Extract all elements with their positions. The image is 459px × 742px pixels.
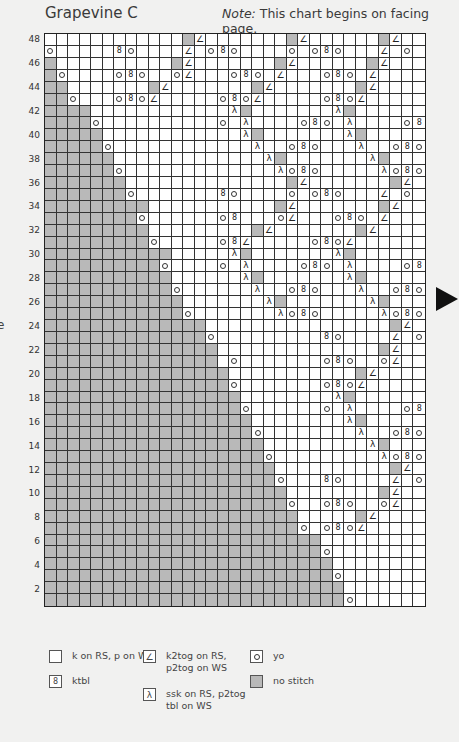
chart-cell bbox=[57, 427, 69, 439]
chart-cell bbox=[218, 582, 230, 594]
chart-cell bbox=[367, 344, 379, 356]
chart-cell: λ bbox=[333, 249, 345, 261]
chart-cell bbox=[206, 70, 218, 82]
chart-cell bbox=[264, 189, 276, 201]
chart-cell bbox=[310, 153, 322, 165]
chart-cell bbox=[114, 523, 126, 535]
chart-cell bbox=[160, 225, 172, 237]
chart-cell: ∠ bbox=[390, 475, 402, 487]
chart-cell bbox=[310, 344, 322, 356]
chart-cell bbox=[241, 82, 253, 94]
chart-cell bbox=[229, 82, 241, 94]
chart-cell bbox=[218, 153, 230, 165]
chart-cell bbox=[218, 570, 230, 582]
chart-cell bbox=[229, 34, 241, 46]
chart-cell bbox=[413, 94, 425, 106]
chart-cell bbox=[402, 237, 414, 249]
chart-cell bbox=[356, 570, 368, 582]
chart-cell bbox=[344, 141, 356, 153]
chart-cell bbox=[172, 535, 184, 547]
chart-cell bbox=[356, 392, 368, 404]
yo-icon bbox=[174, 287, 180, 293]
chart-cell: ∠ bbox=[356, 94, 368, 106]
chart-cell bbox=[183, 511, 195, 523]
chart-cell bbox=[206, 499, 218, 511]
chart-cell bbox=[379, 511, 391, 523]
chart-cell bbox=[91, 439, 103, 451]
chart-cell bbox=[137, 427, 149, 439]
chart-cell bbox=[114, 308, 126, 320]
chart-cell bbox=[172, 189, 184, 201]
chart-cell: ∠ bbox=[356, 380, 368, 392]
chart-cell: ∠ bbox=[367, 511, 379, 523]
chart-cell bbox=[275, 117, 287, 129]
chart-cell bbox=[103, 225, 115, 237]
chart-cell bbox=[114, 558, 126, 570]
chart-cell bbox=[344, 189, 356, 201]
chart-cell bbox=[390, 582, 402, 594]
chart-cell bbox=[80, 427, 92, 439]
chart-cell bbox=[413, 165, 425, 177]
chart-cell bbox=[195, 594, 207, 606]
chart-cell bbox=[57, 499, 69, 511]
chart-cell bbox=[137, 558, 149, 570]
chart-cell bbox=[379, 356, 391, 368]
chart-cell bbox=[390, 368, 402, 380]
chart-cell bbox=[333, 58, 345, 70]
chart-cell bbox=[287, 487, 299, 499]
chart-cell bbox=[57, 189, 69, 201]
chart-cell: ∠ bbox=[160, 82, 172, 94]
chart-cell: 8 bbox=[114, 46, 126, 58]
chart-cell bbox=[80, 82, 92, 94]
chart-cell bbox=[206, 46, 218, 58]
chart-cell bbox=[264, 380, 276, 392]
ktbl-icon: 8 bbox=[324, 333, 329, 341]
chart-cell bbox=[402, 570, 414, 582]
chart-cell bbox=[275, 380, 287, 392]
chart-cell bbox=[149, 237, 161, 249]
chart-cell bbox=[91, 427, 103, 439]
chart-cell bbox=[402, 439, 414, 451]
chart-cell bbox=[241, 535, 253, 547]
chart-cell bbox=[218, 332, 230, 344]
chart-cell bbox=[68, 296, 80, 308]
chart-cell bbox=[114, 225, 126, 237]
yo-icon bbox=[404, 263, 410, 269]
chart-cell bbox=[218, 117, 230, 129]
yo-icon bbox=[324, 549, 330, 555]
yo-icon bbox=[301, 263, 307, 269]
chart-cell: ∠ bbox=[379, 189, 391, 201]
chart-cell bbox=[114, 70, 126, 82]
chart-cell bbox=[287, 546, 299, 558]
chart-cell bbox=[402, 189, 414, 201]
chart-cell: 8 bbox=[333, 499, 345, 511]
chart-cell bbox=[218, 106, 230, 118]
chart-cell bbox=[310, 356, 322, 368]
chart-cell bbox=[195, 570, 207, 582]
k2tog-icon: ∠ bbox=[403, 321, 411, 330]
chart-cell bbox=[344, 558, 356, 570]
chart-cell bbox=[68, 511, 80, 523]
chart-cell bbox=[402, 380, 414, 392]
chart-cell bbox=[264, 403, 276, 415]
chart-cell: λ bbox=[333, 106, 345, 118]
chart-cell bbox=[379, 392, 391, 404]
chart-cell bbox=[241, 141, 253, 153]
chart-cell bbox=[160, 427, 172, 439]
chart-cell bbox=[390, 153, 402, 165]
chart-cell bbox=[57, 380, 69, 392]
chart-cell bbox=[310, 237, 322, 249]
chart-cell bbox=[137, 463, 149, 475]
yo-icon bbox=[231, 48, 237, 54]
chart-cell bbox=[45, 439, 57, 451]
chart-cell bbox=[160, 58, 172, 70]
chart-cell bbox=[356, 153, 368, 165]
yo-icon bbox=[381, 358, 387, 364]
k2tog-icon: ∠ bbox=[184, 59, 192, 68]
k2tog-icon: ∠ bbox=[392, 476, 400, 485]
chart-cell bbox=[310, 368, 322, 380]
chart-cell bbox=[321, 487, 333, 499]
chart-cell bbox=[310, 594, 322, 606]
chart-cell bbox=[149, 260, 161, 272]
yo-icon bbox=[220, 239, 226, 245]
